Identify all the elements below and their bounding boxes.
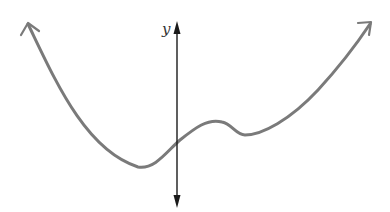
y-axis-label: y — [162, 22, 170, 37]
function-curve — [21, 22, 371, 167]
y-axis — [174, 21, 181, 208]
function-graph: y — [0, 0, 390, 212]
y-axis-down-arrow-icon — [174, 195, 181, 208]
y-axis-up-arrow-icon — [174, 21, 181, 34]
